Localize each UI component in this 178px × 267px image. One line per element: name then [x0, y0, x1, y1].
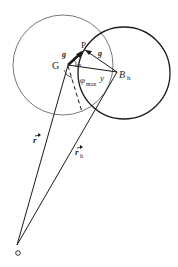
label-g-right: g — [97, 49, 102, 58]
label-P: P — [81, 40, 86, 50]
line-G-Bh — [68, 65, 117, 72]
r-arrowhead-mark — [38, 133, 41, 137]
vector-r-h — [17, 72, 117, 245]
label-r-h: r — [75, 147, 79, 157]
label-r-h-sub: h — [80, 153, 83, 159]
origin-point — [16, 251, 21, 256]
label-phi-max: φ — [80, 75, 85, 85]
dashed-max-line — [68, 66, 82, 112]
label-G: G — [52, 60, 59, 71]
circle-around-G — [13, 15, 113, 115]
label-B: B — [119, 69, 125, 80]
r-h-arrowhead-mark — [80, 145, 83, 149]
label-phi: φ — [77, 61, 81, 69]
label-B-sub: h — [127, 74, 131, 82]
label-g-left: g — [61, 50, 66, 59]
label-r: r — [33, 135, 37, 145]
vector-geometry-diagram: G P g g B h y φ φ max r r h — [0, 0, 178, 267]
vector-r — [17, 65, 68, 245]
label-phi-max-sub: max — [86, 81, 96, 87]
label-y: y — [99, 73, 104, 83]
